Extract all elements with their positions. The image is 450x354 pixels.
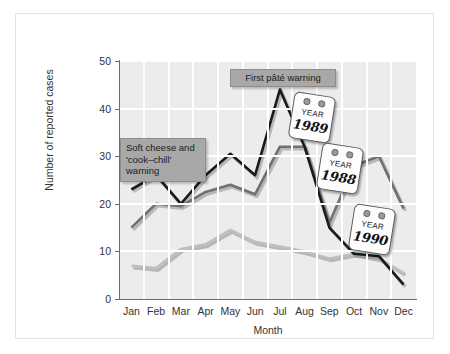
gridline-vertical — [267, 61, 269, 299]
y-tick-mark — [115, 109, 120, 110]
year-tag-1988: YEAR 1988 — [316, 142, 365, 195]
gridline-vertical — [366, 61, 368, 299]
y-tick-mark — [115, 251, 120, 252]
gridline-vertical — [217, 61, 219, 299]
hole-right-icon — [378, 212, 386, 220]
y-tick-label: 20 — [87, 199, 111, 209]
year-tag-1989: YEAR 1989 — [288, 91, 337, 144]
annotation-line-1: Soft cheese and — [126, 142, 200, 154]
y-tick-label: 0 — [87, 294, 111, 304]
hole-left-icon — [331, 149, 339, 157]
y-tick-label: 50 — [87, 56, 111, 66]
hole-right-icon — [346, 151, 354, 159]
hole-left-icon — [303, 98, 311, 106]
y-tick-label: 30 — [87, 151, 111, 161]
x-axis-title: Month — [119, 324, 417, 336]
year-tag-1990: YEAR 1990 — [348, 203, 397, 256]
y-tick-label: 40 — [87, 104, 111, 114]
gridline-vertical — [242, 61, 244, 299]
gridline-vertical — [390, 61, 392, 299]
annotation-first-pate: First pâté warning — [230, 69, 336, 87]
y-axis-title: Number of reported cases — [43, 50, 55, 210]
annotation-line-2: 'cook–chill' — [126, 154, 200, 166]
annotation-line-1: First pâté warning — [245, 72, 321, 84]
annotation-soft-cheese: Soft cheese and 'cook–chill' warning — [120, 138, 206, 182]
annotation-line-3: warning — [126, 165, 200, 177]
hole-right-icon — [318, 100, 326, 108]
y-tick-mark — [115, 61, 120, 62]
hole-left-icon — [363, 210, 371, 218]
y-tick-mark — [115, 299, 120, 300]
y-tick-mark — [115, 204, 120, 205]
x-tick-label-dec: Dec — [387, 305, 421, 317]
figure-frame: 01020304050 JanFebMarAprMayJunJulAugSepO… — [15, 13, 434, 339]
y-tick-label: 10 — [87, 246, 111, 256]
x-axis — [119, 299, 417, 300]
